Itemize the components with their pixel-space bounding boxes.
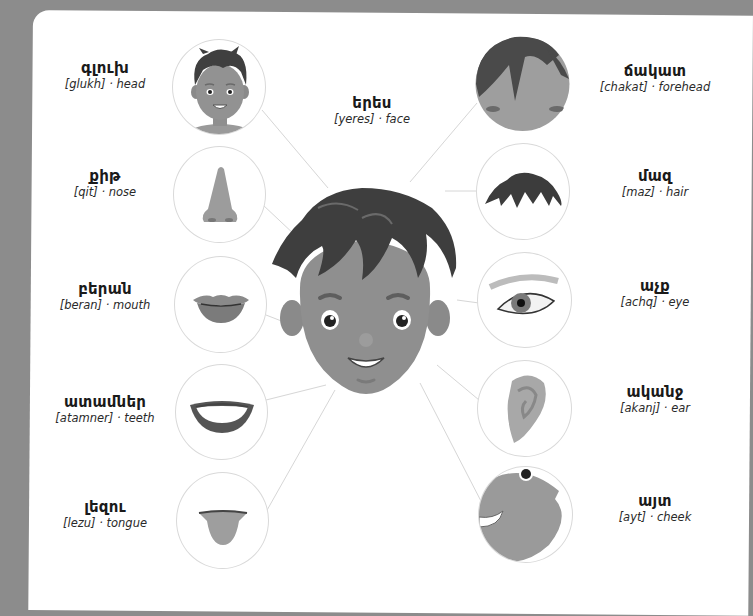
transliteration: [chakat] · forehead	[590, 80, 720, 94]
label-forehead: ճակատ [chakat] · forehead	[590, 63, 720, 94]
label-teeth: ատամներ [atamner] · teeth	[40, 394, 170, 425]
armenian-word: երես	[312, 95, 432, 112]
armenian-word: աչք	[590, 278, 720, 295]
transliteration: [qit] · nose	[40, 185, 170, 199]
label-head: գլուխ [glukh] · head	[40, 60, 170, 91]
ear-image-circle	[477, 360, 572, 457]
armenian-word: քիթ	[40, 168, 170, 185]
hair-icon	[477, 144, 570, 240]
label-cheek: այտ [ayt] · cheek	[590, 493, 720, 524]
transliteration: [yeres] · face	[312, 112, 432, 126]
armenian-word: գլուխ	[40, 60, 170, 77]
nose-image-circle	[173, 146, 266, 243]
ear-icon	[478, 361, 572, 457]
transliteration: [ayt] · cheek	[590, 510, 720, 524]
cheek-image-circle	[478, 466, 573, 563]
eye-image-circle	[477, 252, 572, 348]
transliteration: [beran] · mouth	[40, 298, 170, 312]
boy-face-illustration	[262, 168, 468, 408]
teeth-image-circle	[175, 364, 268, 460]
forehead-image-circle	[475, 35, 570, 133]
label-nose: քիթ [qit] · nose	[40, 168, 170, 199]
eye-icon	[478, 253, 572, 348]
transliteration: [achq] · eye	[590, 295, 720, 309]
transliteration: [akanj] · ear	[590, 401, 720, 415]
boy-head-icon	[173, 40, 266, 135]
label-mouth: բերան [beran] · mouth	[40, 281, 170, 312]
armenian-word: բերան	[40, 281, 170, 298]
nose-icon	[174, 147, 266, 243]
head-image-circle	[172, 39, 266, 135]
cheek-closeup-icon	[479, 467, 573, 563]
armenian-word: ականջ	[590, 384, 720, 401]
mouth-image-circle	[174, 256, 267, 353]
label-eye: աչք [achq] · eye	[590, 278, 720, 309]
lips-icon	[175, 257, 267, 353]
armenian-word: այտ	[590, 493, 720, 510]
forehead-closeup-icon	[475, 35, 570, 133]
label-tongue: լեզու [lezu] · tongue	[40, 499, 170, 530]
transliteration: [maz] · hair	[590, 185, 720, 199]
transliteration: [lezu] · tongue	[40, 516, 170, 530]
label-ear: ականջ [akanj] · ear	[590, 384, 720, 415]
armenian-word: ճակատ	[590, 63, 720, 80]
smile-teeth-icon	[176, 365, 268, 460]
label-hair: մազ [maz] · hair	[590, 168, 720, 199]
transliteration: [atamner] · teeth	[40, 411, 170, 425]
transliteration: [glukh] · head	[40, 77, 170, 91]
label-face: երես [yeres] · face	[312, 95, 432, 126]
hair-image-circle	[476, 143, 570, 240]
armenian-word: լեզու	[40, 499, 170, 516]
tongue-icon	[177, 473, 269, 569]
tongue-image-circle	[176, 472, 269, 569]
armenian-word: ատամներ	[40, 394, 170, 411]
armenian-word: մազ	[590, 168, 720, 185]
